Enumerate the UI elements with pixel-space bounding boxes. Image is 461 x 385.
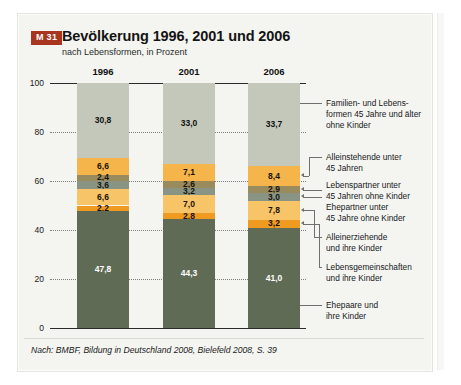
legend-item-label: 45 Jahren	[326, 163, 444, 174]
bar-segment-value: 41,0	[266, 274, 283, 283]
legend-item-label: Alleinstehende unter	[326, 152, 444, 163]
leader-line	[303, 210, 314, 211]
leader-arrow	[301, 173, 304, 177]
legend-item-label: 45 Jahre ohne Kinder	[326, 213, 444, 224]
bar-segment: 7,8	[248, 201, 300, 220]
bar-segment-value: 7,0	[183, 200, 195, 209]
bar-segment: 33,7	[248, 83, 300, 166]
bar-segment-value: 7,1	[183, 168, 195, 177]
legend-item: Familien- und Lebens-formen 45 Jahre und…	[326, 98, 444, 132]
column-header-1996: 1996	[77, 66, 129, 77]
leader-line	[300, 103, 322, 104]
legend-item-label: Familien- und Lebens-	[326, 98, 444, 109]
legend-item: Lebensgemeinschaftenund ihre Kinder	[326, 262, 444, 284]
bar-segment-value: 6,6	[97, 162, 109, 171]
leader-line	[303, 190, 322, 191]
column-header-2001: 2001	[163, 66, 215, 77]
bar-segment: 33,0	[163, 83, 215, 164]
column-header-2006: 2006	[248, 66, 300, 77]
legend-item-label: und ihre Kinder	[326, 243, 444, 254]
leader-line	[319, 224, 320, 267]
legend-item: Alleinstehende unter45 Jahren	[326, 152, 444, 174]
legend-item-label: und ihre Kinder	[326, 273, 444, 284]
legend-item: Ehepartner unter45 Jahre ohne Kinder	[326, 202, 444, 224]
y-axis-tick-label: 20	[22, 274, 44, 284]
legend-item: Ehepaare undihre Kinder	[326, 300, 444, 322]
leader-arrow	[301, 187, 304, 191]
y-axis-tick-label: 80	[22, 127, 44, 137]
bar-segment: 2,8	[163, 213, 215, 220]
bar-segment-value: 3,6	[97, 181, 109, 190]
bar-segment: 3,0	[248, 193, 300, 200]
bar-segment-value: 47,8	[95, 265, 112, 274]
legend-item-label: Lebensgemeinschaften	[326, 262, 444, 273]
bar-segment-value: 30,8	[95, 116, 112, 125]
legend-item-label: formen 45 Jahre und älter	[326, 109, 444, 120]
bar-segment: 30,8	[77, 83, 129, 158]
bar-segment: 44,3	[163, 219, 215, 328]
legend-item-label: Lebenspartner unter	[326, 180, 444, 191]
bar-segment: 3,2	[163, 188, 215, 196]
footer-divider	[24, 338, 424, 339]
legend-item-label: Alleinerziehende	[326, 232, 444, 243]
bar-segment: 41,0	[248, 228, 300, 328]
bar-segment-value: 6,6	[97, 193, 109, 202]
bar-segment: 47,8	[77, 211, 129, 328]
bar-segment-value: 33,7	[266, 120, 283, 129]
legend-item-label: Ehepaare und	[326, 300, 444, 311]
leader-line	[319, 267, 322, 268]
y-axis-tick-label: 100	[22, 78, 44, 88]
chart-figure: M 31 Bevölkerung 1996, 2001 und 2006 nac…	[0, 0, 461, 385]
bar-column-2006: 33,78,42,93,07,83,241,0	[248, 83, 300, 328]
leader-line	[300, 305, 322, 306]
legend-item: Lebenspartner unter45 Jahren ohne Kinder	[326, 180, 444, 202]
bar-segment-value: 8,4	[268, 172, 280, 181]
source-note: Nach: BMBF, Bildung in Deutschland 2008,…	[31, 345, 277, 355]
leader-arrow	[301, 194, 304, 198]
bar-column-1996: 30,86,62,43,66,62,247,8	[77, 83, 129, 328]
leader-line	[303, 197, 322, 198]
bar-column-2001: 33,07,12,63,27,02,844,3	[163, 83, 215, 328]
gridline	[50, 328, 306, 329]
legend-item-label: Ehepartner unter	[326, 202, 444, 213]
plot-area: 02040608010019962001200630,86,62,43,66,6…	[0, 0, 461, 385]
bar-segment-value: 33,0	[181, 119, 198, 128]
bar-segment: 3,6	[77, 181, 129, 190]
leader-arrow	[301, 221, 304, 225]
bar-segment-value: 7,8	[268, 206, 280, 215]
legend-item-label: ihre Kinder	[326, 311, 444, 322]
bar-segment: 8,4	[248, 166, 300, 187]
leader-line	[314, 237, 322, 238]
bar-segment-value: 44,3	[181, 269, 198, 278]
y-axis-tick-label: 40	[22, 225, 44, 235]
leader-line	[309, 157, 310, 176]
y-axis-tick-label: 0	[22, 323, 44, 333]
legend-item-label: ohne Kinder	[326, 120, 444, 131]
y-axis-tick-label: 60	[22, 176, 44, 186]
legend-item-label: 45 Jahren ohne Kinder	[326, 191, 444, 202]
bar-segment: 3,2	[248, 220, 300, 228]
leader-arrow	[301, 208, 304, 212]
leader-line	[309, 157, 322, 158]
leader-line	[303, 224, 319, 225]
legend-item: Alleinerziehendeund ihre Kinder	[326, 232, 444, 254]
